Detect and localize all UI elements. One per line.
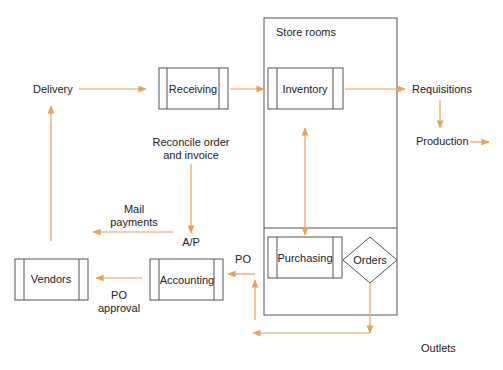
reconcile-label-line2: and invoice (163, 149, 219, 161)
receiving-label: Receiving (169, 83, 217, 95)
purchasing-process: Purchasing (268, 237, 342, 278)
delivery-label: Delivery (33, 83, 73, 95)
purchasing-label: Purchasing (277, 252, 332, 264)
inventory-label: Inventory (282, 83, 328, 95)
po-approval-label-line1: PO (111, 289, 127, 301)
mail-payments-label-line2: payments (110, 216, 158, 228)
outlets-label: Outlets (421, 342, 456, 354)
production-label: Production (416, 135, 469, 147)
inventory-process: Inventory (268, 68, 343, 109)
reconcile-label-line1: Reconcile order (152, 136, 229, 148)
flow-diagram: Store rooms Receiving Inventory Purchasi… (0, 0, 503, 370)
mail-payments-label-line1: Mail (124, 203, 144, 215)
po-approval-label-line2: approval (98, 302, 140, 314)
store-rooms-label: Store rooms (276, 26, 336, 38)
ap-label: A/P (182, 236, 200, 248)
orders-decision: Orders (343, 237, 397, 283)
orders-label: Orders (353, 254, 387, 266)
vendors-process: Vendors (15, 259, 88, 300)
accounting-process: Accounting (150, 259, 223, 300)
accounting-label: Accounting (160, 274, 214, 286)
requisitions-label: Requisitions (412, 83, 472, 95)
receiving-process: Receiving (159, 68, 228, 109)
po-label: PO (235, 253, 251, 265)
vendors-label: Vendors (31, 273, 72, 285)
